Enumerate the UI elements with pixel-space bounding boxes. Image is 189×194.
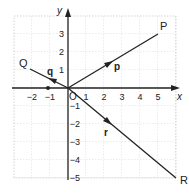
svg-text:−2: −2: [27, 92, 37, 102]
svg-text:3: 3: [119, 92, 124, 102]
svg-text:2: 2: [101, 92, 106, 102]
svg-text:−4: −4: [70, 155, 80, 165]
grid: [14, 16, 176, 178]
svg-text:3: 3: [59, 29, 64, 39]
y-axis-arrow-icon: [65, 8, 71, 17]
svg-text:5: 5: [155, 92, 160, 102]
svg-text:1: 1: [83, 92, 88, 102]
svg-text:−5: −5: [70, 173, 80, 183]
vector-p-label: p: [114, 61, 120, 72]
svg-text:4: 4: [137, 92, 142, 102]
svg-text:2: 2: [59, 47, 64, 57]
vector-diagram: x y O −2 −1 1 2 3 4 5 3 2 1 −1 −2 −3 −4 …: [0, 0, 189, 194]
svg-text:−1: −1: [70, 101, 80, 111]
svg-text:−1: −1: [45, 92, 55, 102]
y-axis-label: y: [56, 5, 63, 16]
svg-text:−3: −3: [70, 137, 80, 147]
point-p-label: P: [160, 20, 167, 32]
point-r-label: R: [180, 174, 188, 186]
vector-q-label: q: [47, 66, 53, 77]
x-axis-label: x: [176, 91, 183, 102]
vector-r-label: r: [104, 127, 108, 138]
point-q-label: Q: [19, 57, 28, 69]
svg-text:−2: −2: [70, 119, 80, 129]
point-dot: [46, 86, 50, 90]
svg-text:1: 1: [59, 65, 64, 75]
